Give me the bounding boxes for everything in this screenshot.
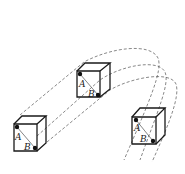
label-b: B — [23, 142, 31, 152]
trajectory-lower — [47, 77, 177, 162]
cube-middle: A B — [77, 63, 110, 99]
point-a-marker — [15, 125, 19, 129]
label-a: A — [78, 79, 86, 89]
label-b: B — [139, 134, 147, 144]
label-a: A — [133, 123, 141, 133]
cube-right: A B — [132, 108, 165, 144]
label-b: B — [87, 89, 95, 99]
trajectory-middle — [37, 65, 166, 160]
label-a: A — [14, 132, 22, 142]
point-a-marker — [78, 72, 82, 76]
cube-trajectory-diagram: A B A B A B — [0, 0, 185, 174]
point-b-marker — [33, 146, 37, 150]
point-a-marker — [134, 118, 138, 122]
point-b-marker — [96, 93, 100, 97]
cube-left: A B — [14, 116, 46, 152]
point-b-marker — [151, 139, 155, 143]
